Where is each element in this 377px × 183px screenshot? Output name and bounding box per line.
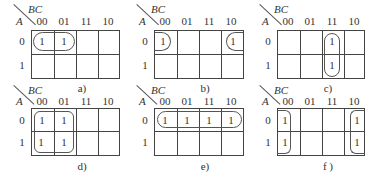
col-header: 11 xyxy=(198,15,220,27)
row-variable-label: A xyxy=(139,95,146,107)
row-header: 0 xyxy=(18,35,26,47)
row-header: 0 xyxy=(141,35,149,47)
row-header: 1 xyxy=(141,59,149,71)
col-header: 01 xyxy=(176,15,198,27)
col-variable-label: BC xyxy=(274,3,288,15)
group-loop xyxy=(324,33,340,77)
row-variable-label: A xyxy=(16,15,23,27)
row-header: 0 xyxy=(18,114,26,126)
group-loop xyxy=(157,111,242,128)
group-loop-left xyxy=(277,110,291,154)
row-header: 1 xyxy=(264,59,272,71)
col-header: 11 xyxy=(75,15,97,27)
row-variable-label: A xyxy=(262,95,269,107)
row-header: 1 xyxy=(141,136,149,148)
col-header: 10 xyxy=(343,15,365,27)
kmap-b: BC A 00 01 11 10 0 1 1 1 b) xyxy=(133,3,253,83)
group-loop xyxy=(34,111,74,153)
row-header: 0 xyxy=(264,35,272,47)
row-header: 1 xyxy=(264,136,272,148)
col-header: 01 xyxy=(299,95,321,107)
col-header: 10 xyxy=(220,95,242,107)
kmap-f: BC A 00 01 11 10 0 1 1 1 1 1 f ) xyxy=(256,84,376,164)
col-header: 00 xyxy=(277,95,299,107)
col-header: 01 xyxy=(53,15,75,27)
group-loop xyxy=(33,32,75,51)
col-header: 00 xyxy=(277,15,299,27)
col-variable-label: BC xyxy=(28,3,42,15)
kmap-a: BC A 00 01 11 10 0 1 1 1 a) xyxy=(10,3,130,83)
kmap-e: BC A 00 01 11 10 0 1 1 1 1 1 e) xyxy=(133,84,253,164)
map-caption: d) xyxy=(67,160,97,172)
col-header: 10 xyxy=(220,15,242,27)
row-header: 1 xyxy=(18,59,26,71)
row-variable-label: A xyxy=(16,95,23,107)
kmap-c: BC A 00 01 11 10 0 1 1 1 c) xyxy=(256,3,376,83)
row-header: 0 xyxy=(264,114,272,126)
col-header: 00 xyxy=(154,15,176,27)
col-header: 11 xyxy=(75,95,97,107)
map-caption: f ) xyxy=(313,160,343,172)
group-loop-right xyxy=(226,32,243,51)
col-header: 11 xyxy=(198,95,220,107)
col-header: 10 xyxy=(97,15,119,27)
row-variable-label: A xyxy=(262,15,269,27)
col-variable-label: BC xyxy=(151,3,165,15)
row-variable-label: A xyxy=(139,15,146,27)
row-header: 1 xyxy=(18,136,26,148)
kmap-d: BC A 00 01 11 10 0 1 1 1 1 1 d) xyxy=(10,84,130,164)
col-header: 00 xyxy=(31,15,53,27)
col-header: 11 xyxy=(321,15,343,27)
group-loop-right xyxy=(350,110,364,154)
row-header: 0 xyxy=(141,114,149,126)
map-caption: e) xyxy=(190,160,220,172)
col-header: 00 xyxy=(154,95,176,107)
col-header: 11 xyxy=(321,95,343,107)
col-header: 10 xyxy=(343,95,365,107)
col-header: 10 xyxy=(97,95,119,107)
col-header: 01 xyxy=(53,95,75,107)
col-header: 01 xyxy=(299,15,321,27)
col-header: 01 xyxy=(176,95,198,107)
col-header: 00 xyxy=(31,95,53,107)
